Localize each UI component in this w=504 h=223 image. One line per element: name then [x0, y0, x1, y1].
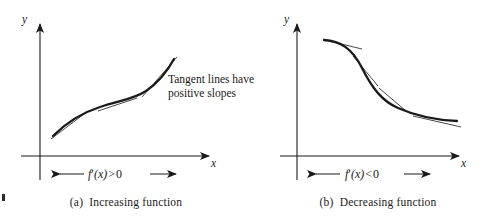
caption-b: (b) Decreasing function [252, 196, 504, 208]
x-axis-label-a: x [211, 157, 216, 169]
annotation-a-line1: Tangent lines have [168, 73, 254, 87]
caption-a: (a) Increasing function [0, 196, 252, 208]
y-axis-label-b: y [284, 13, 289, 25]
derivative-condition-b: f′(x) < 0 [345, 167, 379, 182]
tangent-line-a2 [98, 98, 137, 111]
deriv-a-variable: (x) [94, 167, 107, 181]
deriv-b-value: 0 [373, 167, 379, 181]
figure-container: y x Tangent lines have positive slopes f… [0, 0, 504, 223]
panel-increasing-function: y x Tangent lines have positive slopes f… [0, 0, 252, 223]
panel-decreasing-function: y x Tangent lines have negative slopes f… [252, 0, 504, 223]
increasing-curve [53, 59, 174, 136]
x-axis-label-b: x [461, 157, 466, 169]
decreasing-curve [324, 40, 457, 121]
page-edge-mark [2, 194, 5, 201]
derivative-condition-a: f′(x) > 0 [88, 167, 122, 182]
deriv-a-value: 0 [116, 167, 122, 181]
annotation-a-line2: positive slopes [168, 87, 254, 101]
y-axis-label-a: y [22, 13, 27, 25]
panel-a-graphic [0, 0, 252, 223]
annotation-a: Tangent lines have positive slopes [168, 73, 254, 100]
deriv-b-variable: (x) [351, 167, 364, 181]
panel-b-graphic [252, 0, 504, 223]
